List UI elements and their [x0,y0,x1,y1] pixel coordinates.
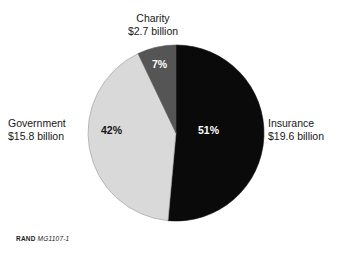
caption-document-id: MG1107-1 [38,235,70,242]
callout-government-amount: $15.8 billion [8,130,90,143]
pie-chart-figure: Charity $2.7 billion Government $15.8 bi… [0,0,352,273]
slice-percent-government: 42% [101,124,122,136]
figure-source-caption: RANDMG1107-1 [16,235,69,242]
slice-percent-insurance: 51% [198,124,219,136]
callout-label-insurance: Insurance $19.6 billion [268,117,352,143]
slice-percent-charity: 7% [152,58,167,70]
callout-insurance-name: Insurance [268,117,352,130]
callout-label-government: Government $15.8 billion [8,117,90,143]
callout-charity-amount: $2.7 billion [128,25,178,38]
callout-label-charity: Charity $2.7 billion [0,12,352,38]
callout-charity-name: Charity [128,12,178,25]
caption-brand: RAND [16,235,36,242]
callout-government-name: Government [8,117,90,130]
callout-insurance-amount: $19.6 billion [268,130,352,143]
